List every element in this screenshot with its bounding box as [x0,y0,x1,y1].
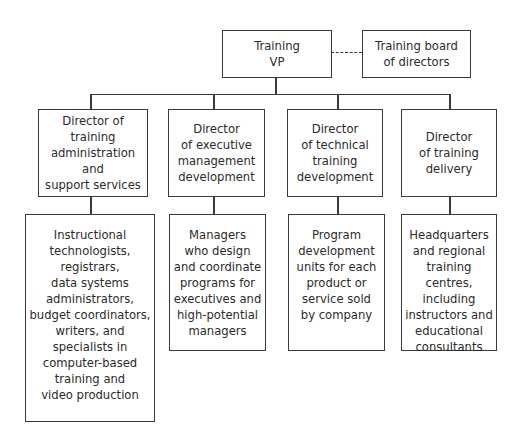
stem-director-3 [337,94,339,109]
training-board-label: Training board of directors [375,38,458,70]
stem-director-1 [90,94,92,109]
director-label: Director of training administration and … [39,113,147,193]
stem-director-2 [213,94,215,109]
training-vp-label: Training VP [254,38,300,70]
director-admin-support-box: Director of training administration and … [38,109,148,197]
unit-label: Headquarters and regional training centr… [402,227,496,355]
unit-label: Program development units for each produ… [297,227,377,323]
director-bus [90,94,450,96]
advisory-dashed-link [331,52,362,53]
stem-unit-1 [90,196,92,214]
director-label: Director of technical training developme… [297,121,373,185]
director-delivery-box: Director of training delivery [401,109,497,197]
stem-unit-3 [337,196,339,214]
root-stem [275,77,277,94]
unit-label: Instructional technologists, registrars,… [29,227,150,403]
unit-delivery-box: Headquarters and regional training centr… [401,214,497,351]
training-vp-box: Training VP [222,30,332,78]
stem-director-4 [449,94,451,109]
stem-unit-4 [449,196,451,214]
unit-exec-mgmt-box: Managers who design and coordinate progr… [169,214,266,351]
training-board-box: Training board of directors [362,30,471,78]
unit-technical-box: Program development units for each produ… [288,214,385,351]
stem-unit-2 [213,196,215,214]
director-technical-box: Director of technical training developme… [287,109,383,197]
unit-admin-support-box: Instructional technologists, registrars,… [25,214,155,422]
director-exec-mgmt-box: Director of executive management develop… [168,109,265,197]
director-label: Director of executive management develop… [178,121,256,185]
unit-label: Managers who design and coordinate progr… [174,227,262,339]
director-label: Director of training delivery [419,129,479,177]
